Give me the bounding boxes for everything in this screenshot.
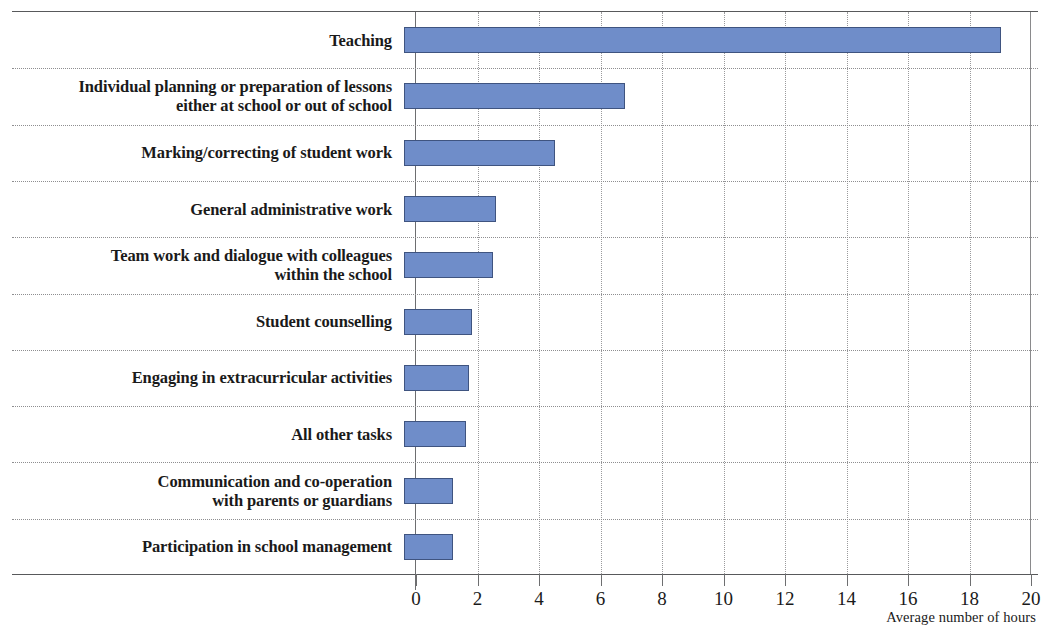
category-label: Team work and dialogue with colleagues w… (0, 246, 404, 284)
bar-row: Teaching (0, 12, 1050, 68)
category-label: Marking/correcting of student work (0, 143, 404, 162)
category-label: Participation in school management (0, 537, 404, 556)
x-tick-label: 8 (657, 588, 667, 610)
bar-row: Communication and co-operation with pare… (0, 462, 1050, 518)
x-tick-mark (908, 574, 909, 586)
bar-track (404, 68, 1050, 124)
x-tick-label: 4 (534, 588, 544, 610)
bar-track (404, 125, 1050, 181)
category-label: Individual planning or preparation of le… (0, 77, 404, 115)
bar-track (404, 462, 1050, 518)
bar-track (404, 294, 1050, 350)
bar-track (404, 406, 1050, 462)
x-tick-label: 10 (714, 588, 733, 610)
category-label: Student counselling (0, 312, 404, 331)
bar[interactable] (404, 309, 472, 335)
bar-row: Team work and dialogue with colleagues w… (0, 237, 1050, 293)
category-label: General administrative work (0, 200, 404, 219)
x-tick-label: 12 (776, 588, 795, 610)
bar-track (404, 350, 1050, 406)
bar-row: Engaging in extracurricular activities (0, 350, 1050, 406)
x-tick-mark (478, 574, 479, 586)
x-tick-mark (785, 574, 786, 586)
x-tick-label: 6 (596, 588, 606, 610)
bar-row: Student counselling (0, 294, 1050, 350)
x-tick-mark (662, 574, 663, 586)
bar-row: All other tasks (0, 406, 1050, 462)
x-tick-mark (539, 574, 540, 586)
x-tick-mark (416, 574, 417, 586)
x-tick-label: 16 (899, 588, 918, 610)
bar[interactable] (404, 478, 453, 504)
category-label: Teaching (0, 31, 404, 50)
category-label: All other tasks (0, 425, 404, 444)
bar-row: Marking/correcting of student work (0, 125, 1050, 181)
bar-row: General administrative work (0, 181, 1050, 237)
bar[interactable] (404, 365, 469, 391)
bar[interactable] (404, 421, 466, 447)
bar[interactable] (404, 140, 555, 166)
bar-track (404, 181, 1050, 237)
bar-track (404, 237, 1050, 293)
bar[interactable] (404, 252, 493, 278)
bar[interactable] (404, 196, 496, 222)
x-tick-label: 2 (473, 588, 483, 610)
x-tick-mark (847, 574, 848, 586)
bar[interactable] (404, 534, 453, 560)
category-label: Engaging in extracurricular activities (0, 368, 404, 387)
x-tick-mark (1031, 574, 1032, 586)
horizontal-bar-chart: TeachingIndividual planning or preparati… (0, 0, 1050, 627)
x-tick-label: 0 (411, 588, 421, 610)
bar-row: Participation in school management (0, 519, 1050, 575)
bar-row: Individual planning or preparation of le… (0, 68, 1050, 124)
bar[interactable] (404, 83, 625, 109)
bar-track (404, 519, 1050, 575)
bar-track (404, 12, 1050, 68)
category-label: Communication and co-operation with pare… (0, 472, 404, 510)
x-tick-label: 20 (1022, 588, 1041, 610)
x-axis-title: Average number of hours (886, 609, 1036, 626)
x-tick-label: 14 (837, 588, 856, 610)
bar[interactable] (404, 27, 1001, 53)
x-tick-mark (970, 574, 971, 586)
x-tick-mark (724, 574, 725, 586)
x-tick-mark (601, 574, 602, 586)
x-tick-label: 18 (960, 588, 979, 610)
